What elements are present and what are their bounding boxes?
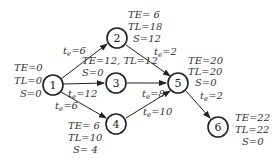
node-4-te: TE= 6 <box>68 120 101 131</box>
node-6-label: 6 <box>215 121 222 134</box>
node-1-te: TE=0 <box>14 62 43 73</box>
edge-1-3 <box>63 83 104 84</box>
node-1-tl: TL=0 <box>14 75 43 86</box>
node-3-s: S=0 <box>82 67 104 78</box>
node-6-s: S=0 <box>242 136 264 147</box>
node-1: 1 <box>43 75 63 95</box>
node-5-annotation: TE=20 TL=20 S=0 <box>188 55 224 88</box>
node-1-s: S=0 <box>20 88 42 99</box>
node-2-label: 2 <box>114 32 121 45</box>
node-1-label: 1 <box>50 79 57 92</box>
network-diagram: 1 2 3 4 5 6 TE=0 TL=0 S=0 TE= 6 TL=18 S=… <box>0 0 280 165</box>
node-3-label: 3 <box>113 77 120 90</box>
node-5: 5 <box>168 73 188 93</box>
node-6-te: TE=22 <box>235 112 270 123</box>
node-6: 6 <box>208 117 228 137</box>
edge-2-5-label: te=2 <box>154 46 177 59</box>
edge-4-5-label: te=10 <box>143 106 173 119</box>
node-4-s: S= 4 <box>73 144 98 155</box>
node-5-label: 5 <box>175 77 182 90</box>
edge-5-6-label: te=2 <box>200 90 223 103</box>
node-4-tl: TL=10 <box>68 132 103 143</box>
node-5-s: S=0 <box>195 77 217 88</box>
node-2-te: TE= 6 <box>128 9 161 20</box>
node-3-te-tl: TE=12, TL=12 <box>82 55 158 66</box>
node-4: 4 <box>106 114 126 134</box>
edge-3-5-label: te=8 <box>142 88 165 101</box>
node-6-tl: TL=22 <box>235 124 269 135</box>
node-6-annotation: TE=22 TL=22 S=0 <box>235 112 270 147</box>
node-1-annotation: TE=0 TL=0 S=0 <box>14 62 43 99</box>
node-3: 3 <box>106 73 126 93</box>
node-2-annotation: TE= 6 TL=18 S=12 <box>128 9 162 44</box>
node-4-annotation: TE= 6 TL=10 S= 4 <box>68 120 103 155</box>
node-2: 2 <box>107 28 127 48</box>
node-2-tl: TL=18 <box>128 21 162 32</box>
node-5-te: TE=20 <box>188 55 224 66</box>
edge-1-4-label: te=6 <box>55 100 79 113</box>
node-2-s: S=12 <box>133 33 161 44</box>
node-4-label: 4 <box>113 118 120 131</box>
node-5-tl: TL=20 <box>188 66 223 77</box>
